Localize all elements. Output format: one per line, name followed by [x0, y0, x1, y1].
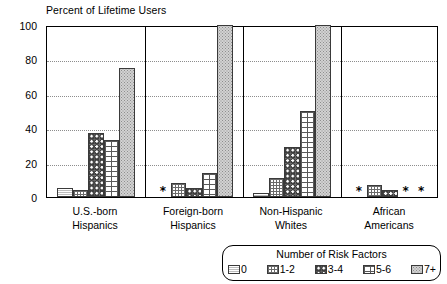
bar	[253, 193, 269, 197]
legend-swatch-icon	[411, 265, 423, 274]
y-tick-label: 40	[25, 124, 37, 134]
chart-title: Percent of Lifetime Users	[46, 4, 166, 16]
group-separator	[341, 27, 342, 197]
x-tick-label-line: Foreign-born	[144, 204, 242, 218]
group-separator	[145, 27, 146, 197]
bar	[171, 183, 187, 197]
bar	[284, 147, 300, 197]
x-axis-category-labels: U.S.-bornHispanicsForeign-bornHispanicsN…	[46, 200, 438, 236]
suppressed-estimate-marker: *	[155, 186, 171, 196]
x-tick-label-line: Americans	[340, 218, 438, 232]
bar	[217, 25, 233, 197]
legend-label: 3-4	[328, 264, 343, 274]
legend-swatch-icon	[315, 265, 327, 274]
bar	[269, 178, 285, 197]
bar	[119, 68, 135, 197]
bar	[382, 190, 398, 197]
bar	[186, 188, 202, 197]
x-tick-label-line: Non-Hispanic	[242, 204, 340, 218]
bar	[202, 173, 218, 197]
suppressed-estimate-marker: *	[413, 186, 429, 196]
bar	[57, 188, 73, 197]
legend-label: 0	[241, 264, 247, 274]
legend-label: 7+	[424, 264, 436, 274]
y-tick-label: 100	[19, 21, 37, 31]
group-separator	[243, 27, 244, 197]
legend-item[interactable]: 1-2	[267, 264, 295, 274]
legend-swatch-icon	[267, 265, 279, 274]
bar	[88, 133, 104, 197]
suppressed-estimate-marker: *	[351, 186, 367, 196]
y-tick-label: 20	[25, 159, 37, 169]
suppressed-estimate-marker: *	[398, 186, 414, 196]
x-tick-label: Foreign-bornHispanics	[144, 204, 242, 232]
x-tick-label: Non-HispanicWhites	[242, 204, 340, 232]
legend-swatch-icon	[363, 265, 375, 274]
legend-item[interactable]: 0	[228, 264, 247, 274]
bar	[367, 185, 383, 197]
legend-swatch-icon	[228, 265, 240, 274]
chart-root: Percent of Lifetime Users 020406080100 *…	[0, 0, 447, 284]
x-tick-label-line: African	[340, 204, 438, 218]
legend-title: Number of Risk Factors	[223, 248, 440, 260]
y-axis-labels: 020406080100	[0, 26, 42, 198]
bar	[315, 25, 331, 197]
bar	[104, 140, 120, 197]
legend-label: 5-6	[376, 264, 391, 274]
bar	[73, 190, 89, 197]
y-tick-label: 0	[31, 193, 37, 203]
gridline	[47, 96, 437, 97]
bar	[300, 111, 316, 197]
x-tick-label-line: U.S.-born	[46, 204, 144, 218]
x-tick-label: U.S.-bornHispanics	[46, 204, 144, 232]
x-tick-label-line: Hispanics	[144, 218, 242, 232]
y-tick-label: 60	[25, 90, 37, 100]
x-tick-label-line: Hispanics	[46, 218, 144, 232]
x-tick-label: AfricanAmericans	[340, 204, 438, 232]
gridline	[47, 61, 437, 62]
plot-area: ****	[46, 26, 438, 198]
x-tick-label-line: Whites	[242, 218, 340, 232]
legend-item[interactable]: 5-6	[363, 264, 391, 274]
y-tick-label: 80	[25, 55, 37, 65]
legend-item[interactable]: 7+	[411, 264, 436, 274]
plot-inner: ****	[47, 27, 437, 197]
legend: Number of Risk Factors 01-23-45-67+	[222, 245, 441, 281]
legend-label: 1-2	[280, 264, 295, 274]
gridline	[47, 130, 437, 131]
legend-items: 01-23-45-67+	[228, 264, 436, 274]
legend-item[interactable]: 3-4	[315, 264, 343, 274]
